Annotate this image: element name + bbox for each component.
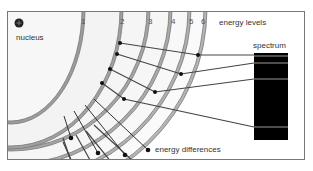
energy-levels-label: energy levels xyxy=(219,18,266,27)
energy-differences-label: energy differences xyxy=(155,145,221,154)
level-1-label: 1 xyxy=(81,17,85,26)
level-6-label: 6 xyxy=(201,17,205,26)
spectrum-label: spectrum xyxy=(253,41,286,50)
diagram-frame: nucleus energy levels spectrum energy di… xyxy=(7,11,305,160)
level-3-label: 3 xyxy=(148,17,152,26)
spectrum-box xyxy=(254,53,288,140)
level-4-label: 4 xyxy=(171,17,175,26)
atom-diagram xyxy=(8,12,305,160)
level-5-label: 5 xyxy=(189,17,193,26)
nucleus-label: nucleus xyxy=(16,33,44,42)
nucleus-icon xyxy=(15,19,24,28)
level-2-label: 2 xyxy=(120,17,124,26)
